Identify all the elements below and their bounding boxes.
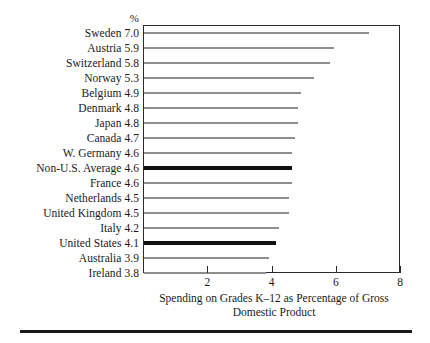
category-label: Canada4.7 [0, 131, 139, 146]
category-value: 4.1 [124, 237, 139, 249]
category-value: 3.9 [124, 252, 139, 264]
bar-row [144, 206, 399, 221]
percent-unit-header: % [0, 12, 139, 24]
bar [144, 47, 334, 49]
category-name: United Kingdom [43, 207, 121, 219]
category-value: 7.0 [124, 27, 139, 39]
category-value: 4.7 [124, 132, 139, 144]
category-value: 4.5 [124, 207, 139, 219]
category-label: Australia3.9 [0, 251, 139, 266]
bar-row [144, 161, 399, 176]
category-value: 4.8 [124, 102, 139, 114]
bar [144, 137, 295, 139]
category-label: Non-U.S. Average4.6 [0, 161, 139, 176]
bar [144, 182, 292, 184]
category-value: 4.5 [124, 192, 139, 204]
category-label: Denmark4.8 [0, 101, 139, 116]
bar-highlighted [144, 241, 276, 245]
plot-area [143, 25, 400, 273]
category-label: United States4.1 [0, 236, 139, 251]
bar-row [144, 251, 399, 266]
x-tick-label: 4 [269, 275, 275, 289]
category-name: Netherlands [65, 192, 121, 204]
category-name: Denmark [78, 102, 121, 114]
x-tick-label: 6 [333, 275, 339, 289]
category-value: 4.6 [124, 162, 139, 174]
bar [144, 227, 279, 229]
bar-row [144, 146, 399, 161]
category-value: 4.8 [124, 117, 139, 129]
bar-series [144, 26, 399, 272]
bar-row [144, 41, 399, 56]
category-name: W. Germany [63, 147, 122, 159]
category-name: United States [59, 237, 121, 249]
bar [144, 152, 292, 154]
category-label: Italy4.2 [0, 221, 139, 236]
bar [144, 62, 330, 64]
category-label: Austria5.9 [0, 41, 139, 56]
x-tick-mark [272, 266, 273, 273]
category-value: 4.6 [124, 177, 139, 189]
category-label: Netherlands4.5 [0, 191, 139, 206]
bar [144, 197, 289, 199]
x-tick-mark [400, 266, 401, 273]
bar-row [144, 26, 399, 41]
category-value: 5.8 [124, 57, 139, 69]
category-value: 3.8 [124, 267, 139, 279]
category-value: 5.9 [124, 42, 139, 54]
bar-row [144, 176, 399, 191]
category-name: Ireland [89, 267, 122, 279]
bar-row [144, 191, 399, 206]
bar-row [144, 221, 399, 236]
bar [144, 212, 289, 214]
category-name: Italy [100, 222, 121, 234]
category-name: France [90, 177, 122, 189]
bar [144, 92, 301, 94]
x-tick-mark [336, 266, 337, 273]
category-name: Austria [87, 42, 121, 54]
category-label: Sweden7.0 [0, 26, 139, 41]
category-label-column: Sweden7.0Austria5.9Switzerland5.8Norway5… [0, 26, 139, 281]
x-tick-mark [207, 266, 208, 273]
caption-line: Domestic Product [143, 306, 405, 320]
category-label: Belgium4.9 [0, 86, 139, 101]
bar-row [144, 71, 399, 86]
category-label: W. Germany4.6 [0, 146, 139, 161]
category-name: Norway [84, 72, 121, 84]
x-axis-tick-labels: 2468 [143, 275, 400, 289]
category-label: Norway5.3 [0, 71, 139, 86]
bar [144, 122, 298, 124]
bar [144, 77, 314, 79]
bar-row [144, 86, 399, 101]
caption-line: Spending on Grades K–12 as Percentage of… [143, 292, 405, 306]
category-label: Ireland3.8 [0, 266, 139, 281]
bar-row [144, 56, 399, 71]
category-value: 4.2 [124, 222, 139, 234]
category-name: Australia [79, 252, 122, 264]
category-name: Switzerland [66, 57, 121, 69]
category-name: Sweden [85, 27, 122, 39]
category-name: Non-U.S. Average [36, 162, 121, 174]
category-value: 4.6 [124, 147, 139, 159]
category-name: Belgium [82, 87, 122, 99]
category-label: United Kingdom4.5 [0, 206, 139, 221]
category-label: France4.6 [0, 176, 139, 191]
bar [144, 257, 269, 259]
category-label: Switzerland5.8 [0, 56, 139, 71]
bar-row [144, 101, 399, 116]
bar-row [144, 116, 399, 131]
bar-row [144, 131, 399, 146]
chart-figure: % Sweden7.0Austria5.9Switzerland5.8Norwa… [0, 0, 430, 343]
x-tick-label: 2 [204, 275, 210, 289]
category-label: Japan4.8 [0, 116, 139, 131]
category-value: 4.9 [124, 87, 139, 99]
category-name: Canada [87, 132, 122, 144]
bar-row [144, 236, 399, 251]
category-name: Japan [95, 117, 121, 129]
x-axis-caption: Spending on Grades K–12 as Percentage of… [143, 292, 405, 319]
x-tick-label: 8 [397, 275, 403, 289]
bar-highlighted [144, 166, 292, 170]
category-value: 5.3 [124, 72, 139, 84]
bar [144, 32, 369, 34]
bottom-divider-rule [20, 330, 412, 333]
